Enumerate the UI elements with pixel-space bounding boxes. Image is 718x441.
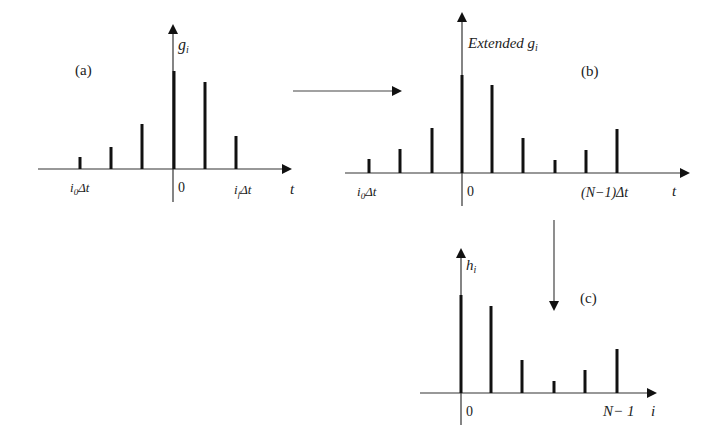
stems-a [80,71,236,169]
tick-zero-a: 0 [178,180,185,195]
tick-left-a: i0Δt [70,180,90,197]
stems-c [461,295,617,393]
panel-c: hi (c) 0 N− 1 i [420,250,655,425]
stems-b [369,75,617,173]
tick-zero-b: 0 [467,184,474,199]
tick-right-a: ifΔt [234,182,252,199]
panel-c-tag: (c) [580,290,597,307]
y-label-a: gi [178,36,189,55]
panel-b-tag: (b) [581,63,599,80]
y-label-c: hi [466,257,477,275]
panel-a-tag: (a) [75,62,92,79]
y-label-b: Extended gi [467,35,538,53]
tick-right-c: N− 1 [602,403,634,419]
x-label-b: t [672,183,677,199]
tick-right-b: (N−1)Δt [581,185,629,201]
x-label-c: i [651,403,655,419]
tick-left-b: i0Δt [357,184,377,201]
x-label-a: t [290,181,295,197]
panel-a: (a) gi i0Δt 0 ifΔt t [38,26,295,202]
panel-b: Extended gi (b) i0Δt 0 (N−1)Δt t [345,14,688,206]
diagram-canvas: (a) gi i0Δt 0 ifΔt t Extended gi (b) i0Δ… [0,0,718,441]
tick-zero-c: 0 [466,404,473,419]
